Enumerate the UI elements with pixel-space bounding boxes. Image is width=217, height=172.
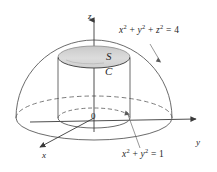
sphere-equation-label: x2 + y2 + z2 = 4 bbox=[119, 26, 179, 36]
leader-arrow-sphere bbox=[156, 57, 161, 62]
cylinder-eq-value: 1 bbox=[159, 149, 164, 159]
axis-label-z: z bbox=[88, 12, 92, 21]
cylinder-eq-equals: = bbox=[148, 149, 159, 159]
sphere-eq-value: 4 bbox=[174, 25, 179, 35]
cylinder-equation-label: x2 + y2 = 1 bbox=[122, 150, 164, 160]
figure-drawing bbox=[0, 0, 217, 172]
curve-label-c: C bbox=[105, 66, 112, 77]
sphere-eq-equals: = bbox=[163, 25, 174, 35]
cylinder-eq-plus-1: + bbox=[130, 149, 141, 159]
origin-label: 0 bbox=[91, 112, 96, 121]
figure-container: x2 + y2 + z2 = 4 x2 + y2 = 1 z y x S C 0 bbox=[0, 0, 217, 172]
sphere-eq-plus-2: + bbox=[145, 25, 156, 35]
leader-line-cylinder bbox=[127, 112, 140, 148]
surface-label-s: S bbox=[106, 51, 112, 62]
axis-label-x: x bbox=[42, 151, 46, 160]
sphere-eq-plus-1: + bbox=[127, 25, 138, 35]
axis-x-line bbox=[40, 118, 94, 147]
leader-arrow-cylinder bbox=[124, 111, 129, 116]
axis-label-y: y bbox=[196, 138, 200, 147]
